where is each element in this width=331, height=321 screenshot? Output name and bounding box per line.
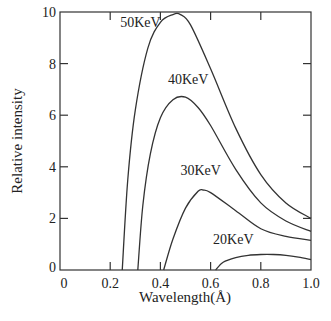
x-axis-label: Wavelength(Å): [139, 289, 231, 306]
y-tick-label: 0: [49, 260, 56, 275]
curve-label: 40KeV: [168, 72, 208, 87]
x-tick-label: 0.8: [252, 276, 270, 291]
chart: 00.20.40.60.81.00246810 50KeV40KeV30KeV2…: [0, 0, 331, 321]
curve-labels: 50KeV40KeV30KeV20KeV: [120, 15, 253, 247]
curve-30kev: [164, 189, 311, 270]
y-tick-label: 10: [42, 5, 56, 20]
curve-label: 30KeV: [180, 163, 220, 178]
y-axis-label: Relative intensity: [9, 88, 25, 194]
y-tick-label: 2: [49, 211, 56, 226]
y-tick-label: 8: [49, 57, 56, 72]
axis-ticks: 00.20.40.60.81.00246810: [42, 5, 320, 291]
plot-frame: [60, 12, 311, 270]
curve-label: 50KeV: [120, 15, 160, 30]
y-tick-label: 4: [49, 160, 56, 175]
x-tick-label: 1.0: [302, 276, 320, 291]
x-tick-label: 0.2: [101, 276, 119, 291]
curve-20kev: [216, 254, 311, 270]
x-tick-label: 0: [61, 276, 68, 291]
curve-label: 20KeV: [213, 232, 253, 247]
y-tick-label: 6: [49, 108, 56, 123]
